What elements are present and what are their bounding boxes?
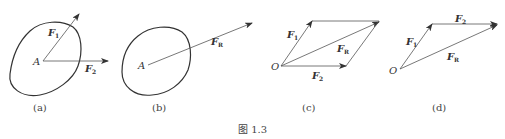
point-a-label: A — [32, 56, 40, 67]
vector-fr-arrow — [148, 23, 252, 65]
parallelogram-side-right — [346, 21, 379, 66]
vector-f2-label: F2 — [84, 63, 96, 75]
rigid-body-outline — [122, 27, 190, 95]
point-a-label: A — [137, 60, 145, 71]
rigid-body-outline — [10, 22, 81, 95]
vector-fr-label: FR — [210, 36, 224, 48]
vector-f1-label: F1 — [286, 29, 298, 41]
figure-caption: 图 1.3 — [238, 124, 267, 135]
panel-d: O F1 F2 FR (d) — [389, 13, 497, 113]
panel-b: A FR (b) — [122, 23, 252, 113]
panel-a-label: (a) — [33, 102, 47, 113]
point-o-label: O — [389, 65, 397, 76]
panel-a: A F1 F2 (a) — [10, 14, 108, 113]
panel-d-label: (d) — [432, 102, 446, 113]
vector-f2-label: F2 — [311, 70, 323, 82]
panel-b-label: (b) — [152, 102, 166, 113]
vector-fr-label: FR — [336, 43, 350, 55]
vector-fr-label: FR — [446, 51, 460, 63]
vector-f1-label: F1 — [405, 36, 417, 48]
vector-f2-label: F2 — [454, 13, 466, 25]
panel-c-label: (c) — [302, 102, 316, 113]
vector-f1-label: F1 — [47, 27, 59, 39]
force-diagram: A F1 F2 (a) A FR (b) O F1 F2 FR — [0, 0, 505, 139]
point-o-label: O — [271, 61, 279, 72]
panel-c: O F1 F2 FR (c) — [271, 21, 379, 113]
